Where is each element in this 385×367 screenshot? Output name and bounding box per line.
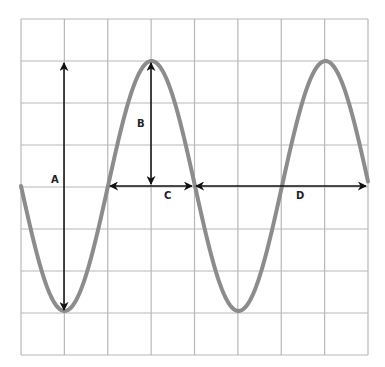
arrow-b: B: [137, 63, 151, 184]
label-b: B: [137, 118, 145, 129]
label-a: A: [51, 174, 59, 185]
sine-wave-diagram: A B C D: [0, 0, 385, 367]
label-c: C: [164, 190, 171, 201]
label-d: D: [296, 190, 304, 201]
